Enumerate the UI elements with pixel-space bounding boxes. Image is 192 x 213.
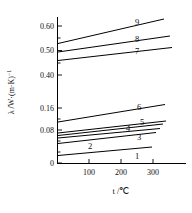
curve-9	[58, 19, 164, 44]
curves-lower	[58, 105, 166, 156]
xtick-label-200: 200	[115, 168, 127, 177]
curves-upper	[58, 19, 172, 61]
curve-label-7: 7	[135, 46, 139, 56]
curve-5	[58, 121, 166, 133]
y-axis-title-group: λ /W·(m·K)−1	[6, 70, 16, 115]
curve-label-9: 9	[135, 17, 139, 27]
y-axis-title-exponent: −1	[6, 70, 12, 76]
curve-6	[58, 105, 165, 123]
ytick-label-040: 0.40	[40, 71, 54, 80]
curve-label-8: 8	[135, 34, 139, 44]
y-ticks-upper	[58, 26, 63, 75]
x-axis-title: t /℃	[113, 186, 130, 196]
x-ticks	[89, 159, 153, 164]
chart-svg: 0.60 0.50 0.40 0.16 0.08 0 100 200 300 t…	[0, 0, 192, 213]
curve-label-3: 3	[137, 132, 141, 142]
xtick-label-100: 100	[83, 168, 95, 177]
curve-label-6: 6	[137, 102, 141, 112]
ytick-label-016: 0.16	[40, 104, 54, 113]
ytick-label-008: 0.08	[40, 126, 54, 135]
ytick-label-0: 0	[50, 159, 54, 168]
y-axis-title-main: λ /W·(m·K)	[7, 76, 16, 115]
curve-label-5: 5	[140, 117, 144, 127]
curve-label-1: 1	[135, 151, 139, 161]
xtick-label-300: 300	[147, 168, 159, 177]
thermal-conductivity-chart: 0.60 0.50 0.40 0.16 0.08 0 100 200 300 t…	[0, 0, 192, 213]
ytick-label-050: 0.50	[40, 46, 54, 55]
curve-label-2: 2	[88, 141, 92, 151]
y-axis-title: λ /W·(m·K)−1	[6, 70, 16, 115]
ytick-label-060: 0.60	[40, 22, 54, 31]
